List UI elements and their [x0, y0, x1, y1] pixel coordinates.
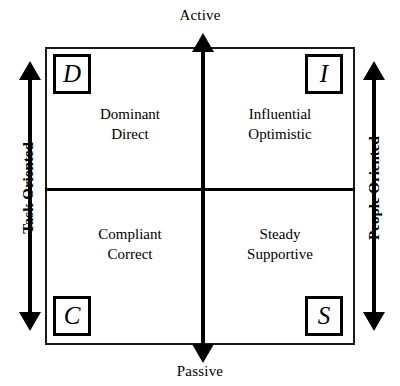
quadrant-text-steady: Steady Supportive — [205, 224, 355, 265]
quadrant-text-influential: Influential Optimistic — [205, 104, 355, 145]
quadrant-text-dominant: Dominant Direct — [55, 104, 205, 145]
quadrant-line-1: Steady — [260, 226, 301, 242]
people-oriented-axis-arrow — [363, 61, 385, 331]
vertical-axis-arrow — [192, 33, 214, 363]
arrow-shaft — [201, 47, 205, 349]
axis-label-passive: Passive — [0, 364, 400, 379]
quadrant-letter-box-c: C — [53, 296, 91, 336]
quadrant-line-1: Dominant — [100, 106, 160, 122]
quadrant-line-2: Correct — [55, 244, 205, 264]
quadrant-letter-c: C — [64, 303, 81, 328]
quadrant-letter-box-i: I — [305, 54, 343, 94]
quadrant-letter-box-d: D — [53, 54, 91, 94]
arrow-head-down-icon — [192, 344, 214, 363]
quadrant-letter-box-s: S — [305, 296, 343, 336]
disc-quadrant-diagram: Active Passive Task Oriented People Orie… — [0, 0, 400, 386]
axis-label-active: Active — [0, 8, 400, 23]
quadrant-letter-s: S — [318, 303, 331, 328]
quadrant-line-1: Compliant — [98, 226, 161, 242]
task-oriented-axis-arrow — [19, 61, 41, 331]
arrow-shaft — [28, 77, 32, 315]
quadrant-letter-i: I — [320, 61, 328, 86]
quadrant-text-compliant: Compliant Correct — [55, 224, 205, 265]
arrow-shaft — [372, 77, 376, 315]
quadrant-letter-d: D — [63, 61, 81, 86]
quadrant-line-2: Optimistic — [205, 124, 355, 144]
arrow-head-down-icon — [19, 312, 41, 331]
quadrant-line-2: Supportive — [205, 244, 355, 264]
arrow-head-down-icon — [363, 312, 385, 331]
quadrant-line-2: Direct — [55, 124, 205, 144]
quadrant-line-1: Influential — [249, 106, 311, 122]
